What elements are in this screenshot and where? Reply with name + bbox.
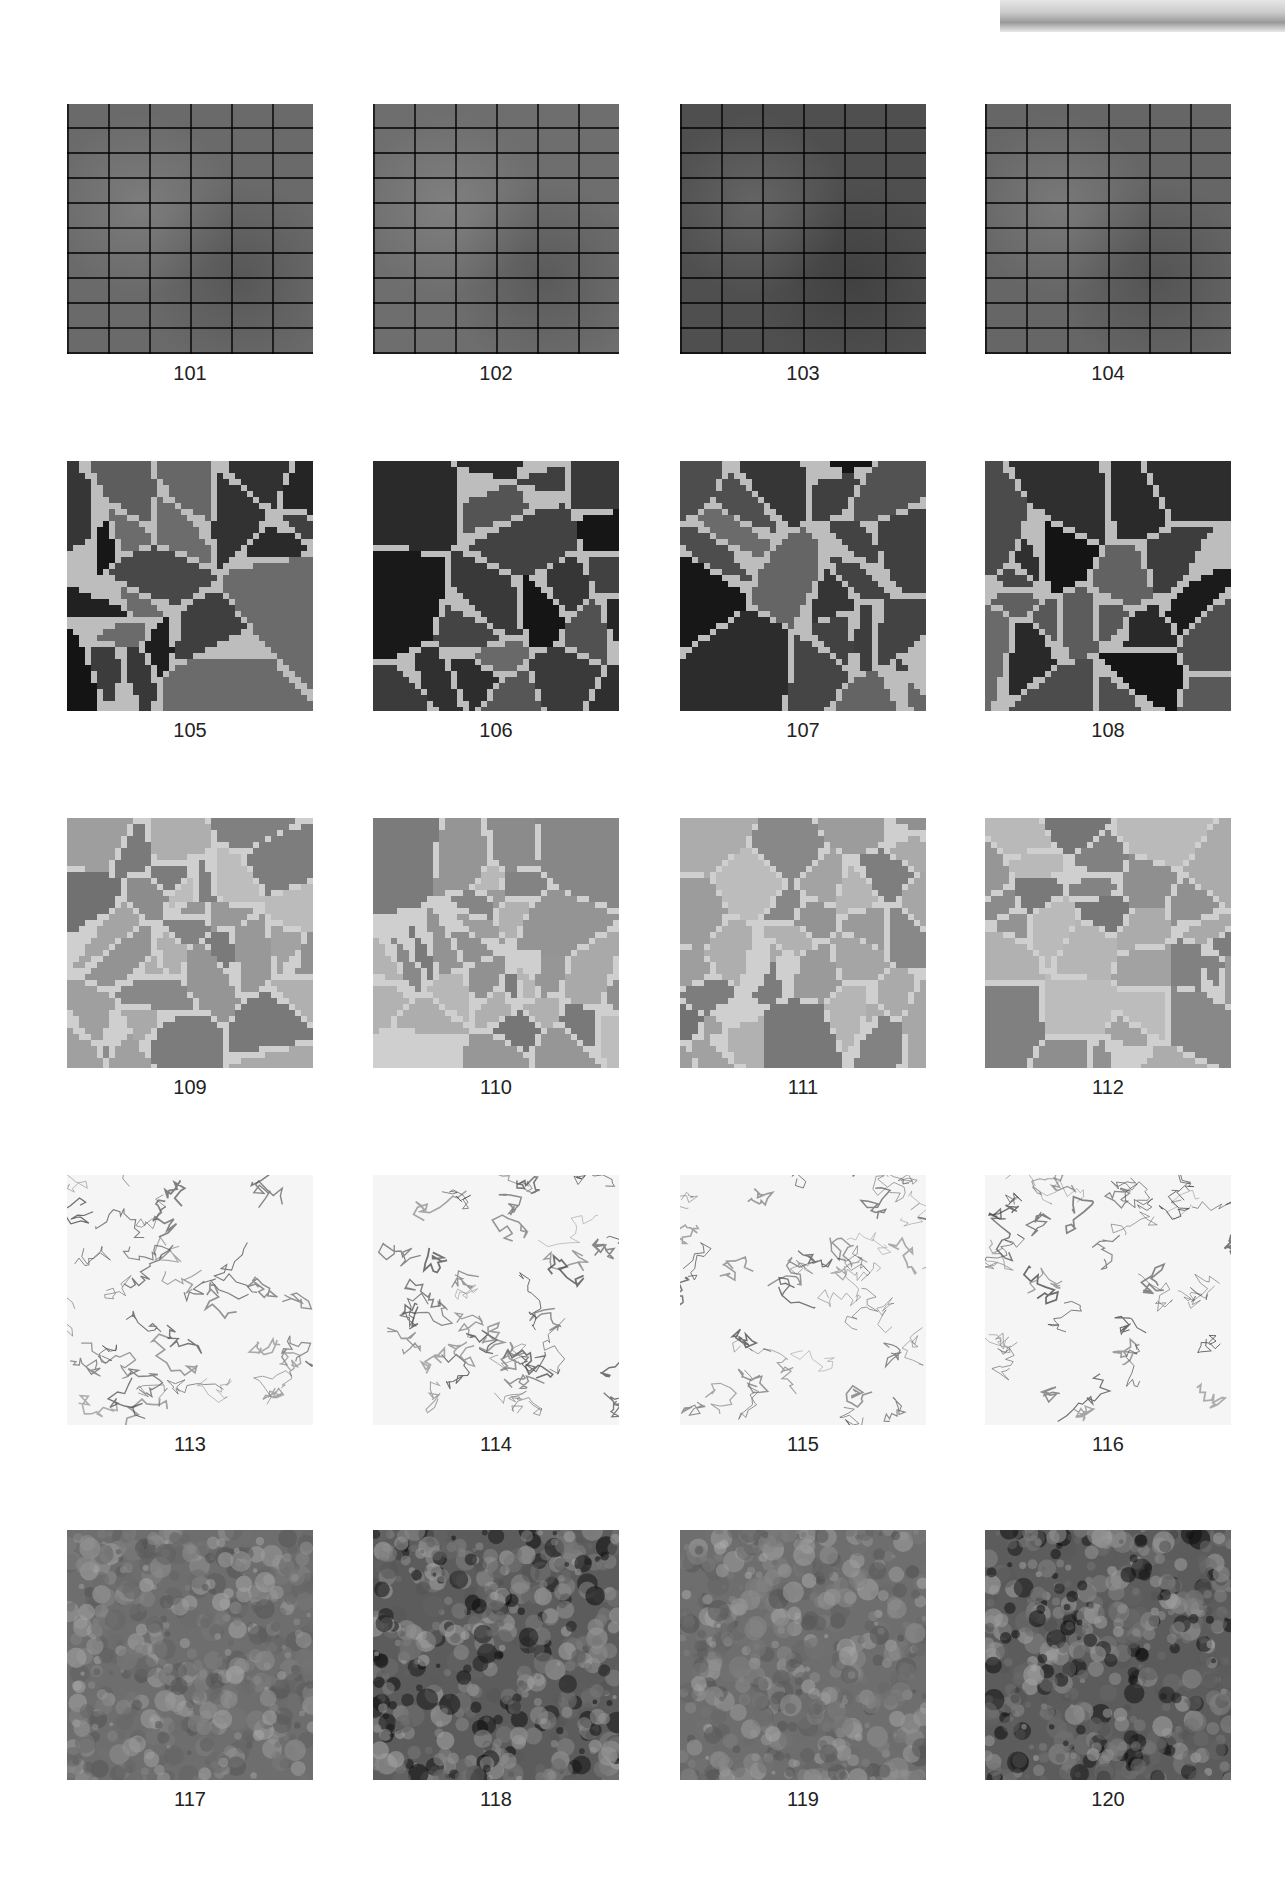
tile-sample: 106 bbox=[373, 461, 623, 742]
tile-swatch-image bbox=[67, 818, 313, 1068]
tile-sample: 110 bbox=[373, 818, 623, 1099]
tile-swatch-image bbox=[373, 461, 619, 711]
tile-swatch-image bbox=[373, 104, 619, 354]
tile-sample: 111 bbox=[680, 818, 930, 1099]
tile-sample: 120 bbox=[985, 1530, 1235, 1811]
tile-swatch-image bbox=[67, 1175, 313, 1425]
tile-sample: 107 bbox=[680, 461, 930, 742]
tile-swatch-image bbox=[985, 461, 1231, 711]
tile-number-label: 111 bbox=[680, 1076, 926, 1099]
tile-swatch-image bbox=[985, 1530, 1231, 1780]
tile-sample: 115 bbox=[680, 1175, 930, 1456]
tile-swatch-image bbox=[680, 1530, 926, 1780]
tile-number-label: 116 bbox=[985, 1433, 1231, 1456]
tile-number-label: 114 bbox=[373, 1433, 619, 1456]
tile-sample: 108 bbox=[985, 461, 1235, 742]
tile-swatch-image bbox=[373, 1530, 619, 1780]
tile-sample: 118 bbox=[373, 1530, 623, 1811]
tile-number-label: 117 bbox=[67, 1788, 313, 1811]
tile-swatch-image bbox=[985, 818, 1231, 1068]
tile-swatch-image bbox=[373, 818, 619, 1068]
tile-number-label: 120 bbox=[985, 1788, 1231, 1811]
tile-swatch-image bbox=[67, 1530, 313, 1780]
tile-sample: 112 bbox=[985, 818, 1235, 1099]
tile-sample: 101 bbox=[67, 104, 317, 385]
tile-swatch-image bbox=[985, 104, 1231, 354]
tile-number-label: 106 bbox=[373, 719, 619, 742]
tile-swatch-image bbox=[67, 461, 313, 711]
tile-sample: 109 bbox=[67, 818, 317, 1099]
tile-number-label: 115 bbox=[680, 1433, 926, 1456]
tile-sample: 102 bbox=[373, 104, 623, 385]
tile-sample: 114 bbox=[373, 1175, 623, 1456]
tile-number-label: 101 bbox=[67, 362, 313, 385]
tile-sample: 116 bbox=[985, 1175, 1235, 1456]
tile-sample: 105 bbox=[67, 461, 317, 742]
tile-swatch-image bbox=[67, 104, 313, 354]
tile-number-label: 107 bbox=[680, 719, 926, 742]
header-decoration-bar bbox=[1000, 0, 1285, 32]
tile-number-label: 103 bbox=[680, 362, 926, 385]
tile-number-label: 105 bbox=[67, 719, 313, 742]
tile-number-label: 110 bbox=[373, 1076, 619, 1099]
tile-swatch-image bbox=[680, 461, 926, 711]
tile-sample: 113 bbox=[67, 1175, 317, 1456]
tile-number-label: 102 bbox=[373, 362, 619, 385]
tile-number-label: 109 bbox=[67, 1076, 313, 1099]
tile-swatch-image bbox=[680, 818, 926, 1068]
tile-number-label: 112 bbox=[985, 1076, 1231, 1099]
tile-number-label: 104 bbox=[985, 362, 1231, 385]
tile-swatch-image bbox=[373, 1175, 619, 1425]
tile-swatch-image bbox=[985, 1175, 1231, 1425]
tile-number-label: 108 bbox=[985, 719, 1231, 742]
tile-swatch-image bbox=[680, 1175, 926, 1425]
tile-sample: 119 bbox=[680, 1530, 930, 1811]
tile-sample: 104 bbox=[985, 104, 1235, 385]
tile-sample: 117 bbox=[67, 1530, 317, 1811]
tile-sample: 103 bbox=[680, 104, 930, 385]
tile-swatch-image bbox=[680, 104, 926, 354]
tile-number-label: 119 bbox=[680, 1788, 926, 1811]
tile-number-label: 113 bbox=[67, 1433, 313, 1456]
tile-number-label: 118 bbox=[373, 1788, 619, 1811]
